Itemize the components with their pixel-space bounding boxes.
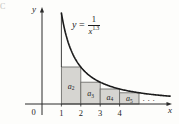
origin-label: 0 <box>31 107 35 117</box>
equation-equals-sign: = <box>79 19 85 30</box>
x-axis-label: x <box>167 105 172 115</box>
equation-lhs: y = <box>72 20 85 30</box>
equation-y-variable: y <box>72 19 76 30</box>
equation-numerator: 1 <box>90 15 98 25</box>
equation-denominator: x1.3 <box>88 25 101 36</box>
y-axis-arrowhead-icon <box>40 7 44 13</box>
x-tick-label: 1 <box>59 108 63 118</box>
y-axis-label: y <box>31 4 36 14</box>
figure-container: C a2a3a4a512340xy· · · y = 1 x1.3 <box>0 0 179 124</box>
x-tick-label: 2 <box>79 108 83 118</box>
x-tick-label: 4 <box>117 108 122 118</box>
curve-equation: y = 1 x1.3 <box>72 15 100 35</box>
equation-denominator-exponent: 1.3 <box>92 25 99 31</box>
x-tick-label: 3 <box>98 108 102 118</box>
equation-fraction: 1 x1.3 <box>88 15 101 35</box>
ellipsis-label: · · · <box>142 95 155 105</box>
